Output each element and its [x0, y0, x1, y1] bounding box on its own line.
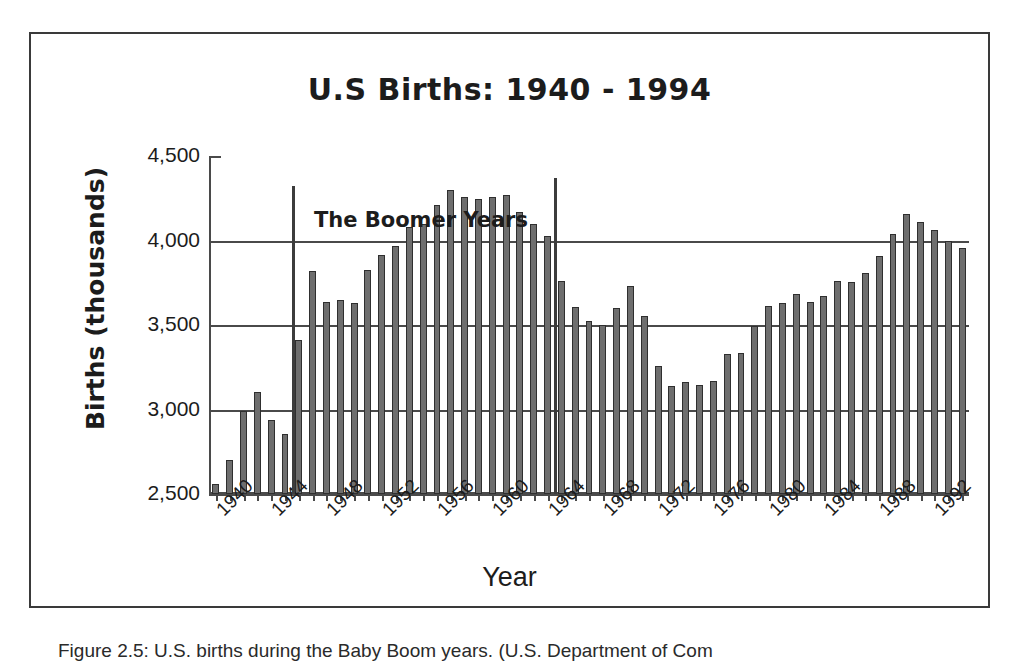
bar — [544, 236, 551, 494]
bar — [337, 300, 344, 494]
y-tick-label: 2,500 — [147, 481, 200, 505]
x-tick — [700, 494, 702, 501]
boomer-start-line — [292, 186, 295, 494]
x-tick — [368, 494, 370, 501]
bar — [627, 286, 634, 494]
bar — [268, 420, 275, 494]
bar — [724, 354, 731, 494]
x-tick — [755, 494, 757, 501]
bar — [475, 199, 482, 494]
bar — [392, 246, 399, 494]
y-axis-title: Births (thousands) — [81, 139, 110, 459]
boomer-annotation-label: The Boomer Years — [314, 208, 528, 232]
y-tick-label: 3,000 — [147, 396, 200, 420]
bar — [876, 256, 883, 494]
x-tick — [257, 494, 259, 501]
boomer-end-line — [554, 178, 557, 494]
bar — [710, 381, 717, 494]
bar — [434, 205, 441, 494]
y-tick-label: 4,500 — [147, 143, 200, 167]
bar — [848, 282, 855, 494]
bar — [323, 302, 330, 494]
bar — [793, 294, 800, 494]
x-tick — [589, 494, 591, 501]
bar — [779, 303, 786, 494]
y-tick-label: 3,500 — [147, 312, 200, 336]
bar — [807, 302, 814, 494]
bar — [655, 366, 662, 494]
bar — [516, 212, 523, 494]
bar — [862, 273, 869, 494]
bar — [309, 271, 316, 494]
bar — [738, 353, 745, 494]
bar — [834, 281, 841, 494]
bar — [696, 385, 703, 494]
bar — [378, 255, 385, 494]
bar — [959, 248, 966, 494]
bar — [641, 316, 648, 494]
x-tick — [478, 494, 480, 501]
x-tick — [534, 494, 536, 501]
bar — [931, 230, 938, 494]
figure-caption: Figure 2.5: U.S. births during the Baby … — [58, 640, 988, 662]
bar — [351, 303, 358, 494]
bar — [613, 308, 620, 494]
bar — [765, 306, 772, 494]
bar — [212, 484, 219, 494]
bar — [461, 197, 468, 494]
bar — [295, 340, 302, 494]
bar — [945, 241, 952, 495]
bar — [364, 270, 371, 494]
bar — [820, 296, 827, 494]
bar — [917, 222, 924, 494]
bar — [489, 197, 496, 494]
x-tick — [423, 494, 425, 501]
bar — [668, 386, 675, 494]
bar — [420, 224, 427, 494]
x-tick — [810, 494, 812, 501]
x-axis-title: Year — [31, 562, 988, 593]
bar — [447, 190, 454, 494]
bar — [530, 224, 537, 494]
bar-series — [209, 156, 969, 494]
chart-title: U.S Births: 1940 - 1994 — [31, 72, 988, 107]
x-tick — [644, 494, 646, 501]
bar — [503, 195, 510, 494]
bar — [254, 392, 261, 494]
plot-area: 2,5003,0003,5004,0004,500 19401944194819… — [209, 156, 969, 494]
bar — [586, 321, 593, 494]
x-tick — [313, 494, 315, 501]
x-tick — [865, 494, 867, 501]
bar — [903, 214, 910, 494]
bar — [890, 234, 897, 494]
figure-frame: U.S Births: 1940 - 1994 Births (thousand… — [29, 32, 990, 608]
bar — [406, 227, 413, 494]
bar — [558, 281, 565, 494]
bar — [572, 307, 579, 494]
y-tick-label: 4,000 — [147, 227, 200, 251]
x-tick — [921, 494, 923, 501]
bar — [599, 325, 606, 494]
bar — [751, 326, 758, 494]
